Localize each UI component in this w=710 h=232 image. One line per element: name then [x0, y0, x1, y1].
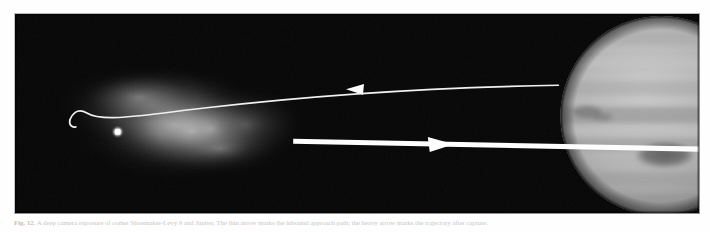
figure-caption: Fig. 12. A deep camera exposure of comet…: [14, 219, 694, 232]
figure-root: Fig. 12. A deep camera exposure of comet…: [0, 0, 710, 232]
figure-caption-text: A deep camera exposure of comet Shoemake…: [37, 219, 488, 227]
astronomy-photo-plate: [14, 13, 700, 214]
photo-canvas: [15, 14, 699, 213]
figure-caption-label: Fig. 12.: [14, 219, 35, 227]
film-grain-overlay: [15, 14, 699, 213]
